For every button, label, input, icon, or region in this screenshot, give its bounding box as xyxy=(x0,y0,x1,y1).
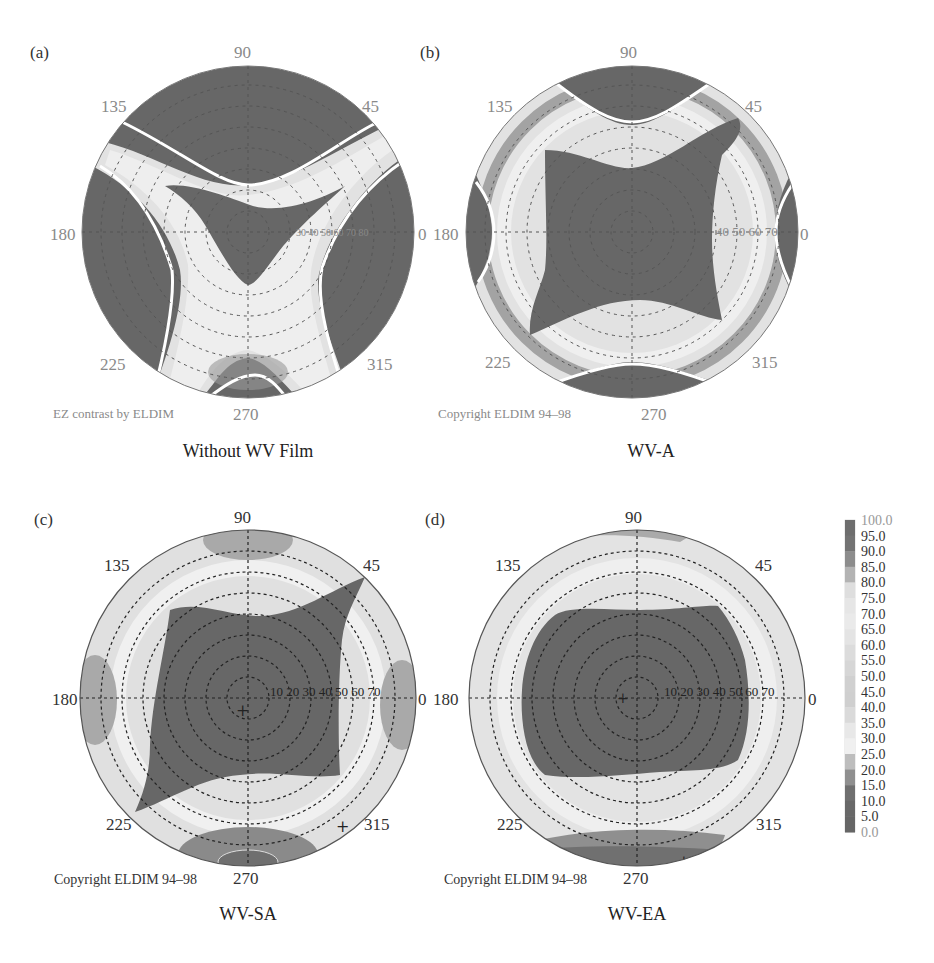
az-label-135: 135 xyxy=(495,556,521,575)
az-label-180: 180 xyxy=(50,225,76,244)
az-label-135: 135 xyxy=(101,97,127,116)
caption-d: WV-EA xyxy=(608,904,666,924)
panel-letter-b: (b) xyxy=(420,43,440,62)
az-label-45: 45 xyxy=(362,97,379,116)
panel-a: 30 40 50 60 70 80 xyxy=(82,66,415,402)
az-label-45: 45 xyxy=(745,97,762,116)
colorbar-swatch xyxy=(845,660,855,676)
az-label-315: 315 xyxy=(756,815,782,834)
az-label-0: 0 xyxy=(800,225,809,244)
colorbar-swatch xyxy=(845,707,855,723)
az-label-90: 90 xyxy=(625,508,642,527)
colorbar-tick-label: 20.0 xyxy=(861,763,886,778)
colorbar-swatch xyxy=(845,676,855,692)
caption-c: WV-SA xyxy=(219,904,276,924)
az-label-315: 315 xyxy=(367,355,393,374)
colorbar-tick-label: 55.0 xyxy=(861,653,886,668)
colorbar-tick-label: 30.0 xyxy=(861,731,886,746)
colorbar-tick-label: 95.0 xyxy=(861,529,886,544)
colorbar-swatch xyxy=(845,629,855,645)
az-label-135: 135 xyxy=(487,97,513,116)
colorbar-tick-label: 35.0 xyxy=(861,716,886,731)
colorbar-swatch xyxy=(845,738,855,754)
watermark: EZ contrast by ELDIM xyxy=(53,406,174,421)
panel-letter-d: (d) xyxy=(425,510,445,529)
colorbar-tick-label: 40.0 xyxy=(861,700,886,715)
az-label-315: 315 xyxy=(364,815,390,834)
az-label-225: 225 xyxy=(100,355,126,374)
az-label-270: 270 xyxy=(623,869,649,888)
colorbar-swatch xyxy=(845,723,855,739)
colorbar-tick-label: 70.0 xyxy=(861,607,886,622)
az-label-45: 45 xyxy=(363,556,380,575)
radial-labels: 30 40 50 60 70 80 xyxy=(296,227,369,238)
colorbar-tick-label: 65.0 xyxy=(861,622,886,637)
colorbar-tick-label: 15.0 xyxy=(861,778,886,793)
colorbar-ticks: 100.095.090.085.080.075.070.065.060.055.… xyxy=(861,513,893,840)
colorbar-tick-label: 25.0 xyxy=(861,747,886,762)
colorbar-swatch xyxy=(845,816,855,832)
colorbar-swatch xyxy=(845,692,855,708)
panel-letter-c: (c) xyxy=(34,510,53,529)
radial-labels: 10 20 30 40 50 60 70 xyxy=(664,684,775,699)
caption-a: Without WV Film xyxy=(183,441,314,461)
az-label-225: 225 xyxy=(497,815,523,834)
colorbar-tick-label: 0.0 xyxy=(861,825,879,840)
colorbar xyxy=(845,520,855,833)
az-label-225: 225 xyxy=(485,353,511,372)
colorbar-swatch xyxy=(845,536,855,552)
az-label-90: 90 xyxy=(234,43,251,62)
az-label-90: 90 xyxy=(620,43,637,62)
colorbar-tick-label: 60.0 xyxy=(861,638,886,653)
colorbar-swatch xyxy=(845,520,855,536)
colorbar-swatch xyxy=(845,567,855,583)
watermark: Copyright ELDIM 94–98 xyxy=(444,872,587,887)
az-label-45: 45 xyxy=(755,556,772,575)
az-label-180: 180 xyxy=(433,690,459,709)
az-label-0: 0 xyxy=(418,690,427,709)
colorbar-swatch xyxy=(845,598,855,614)
az-label-270: 270 xyxy=(233,405,259,424)
colorbar-swatch xyxy=(845,770,855,786)
watermark: Copyright ELDIM 94–98 xyxy=(54,872,197,887)
colorbar-tick-label: 45.0 xyxy=(861,685,886,700)
colorbar-tick-label: 90.0 xyxy=(861,544,886,559)
colorbar-tick-label: 5.0 xyxy=(861,809,879,824)
radial-labels: 10 20 30 40 50 60 70 xyxy=(270,684,381,699)
colorbar-tick-label: 100.0 xyxy=(861,513,893,528)
colorbar-tick-label: 80.0 xyxy=(861,575,886,590)
colorbar-swatch xyxy=(845,614,855,630)
colorbar-tick-label: 10.0 xyxy=(861,794,886,809)
radial-labels: 40 50 60 70 xyxy=(716,224,778,239)
colorbar-tick-label: 75.0 xyxy=(861,591,886,606)
az-label-0: 0 xyxy=(808,690,817,709)
figure: 30 40 50 60 70 80 xyxy=(0,0,934,963)
watermark: Copyright ELDIM 94–98 xyxy=(438,406,571,421)
colorbar-swatch xyxy=(845,551,855,567)
az-label-90: 90 xyxy=(234,508,251,527)
colorbar-swatch xyxy=(845,582,855,598)
colorbar-swatch xyxy=(845,645,855,661)
panel-letter-a: (a) xyxy=(30,43,49,62)
az-label-225: 225 xyxy=(106,815,132,834)
colorbar-swatch xyxy=(845,801,855,817)
colorbar-swatch xyxy=(845,785,855,801)
colorbar-tick-label: 50.0 xyxy=(861,669,886,684)
az-label-0: 0 xyxy=(418,225,427,244)
caption-b: WV-A xyxy=(627,441,674,461)
az-label-315: 315 xyxy=(752,353,778,372)
az-label-135: 135 xyxy=(104,556,130,575)
az-label-180: 180 xyxy=(52,690,78,709)
colorbar-tick-label: 85.0 xyxy=(861,560,886,575)
az-label-270: 270 xyxy=(233,869,259,888)
crosshair-marker: + xyxy=(617,690,629,706)
az-label-180: 180 xyxy=(433,225,459,244)
az-label-270: 270 xyxy=(641,405,667,424)
colorbar-swatch xyxy=(845,754,855,770)
crosshair-marker: + xyxy=(236,701,249,720)
